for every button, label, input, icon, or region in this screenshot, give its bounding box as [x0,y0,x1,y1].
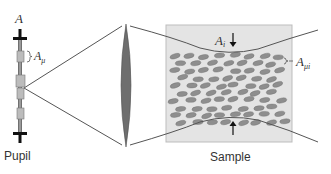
label-aperture-micro: Aμ [33,49,45,65]
optical-diagram: A Aμ Pupil Ai Aμi Sample [0,0,331,174]
subaperture-3 [17,88,24,99]
subaperture-1 [17,51,24,62]
scatterer [186,97,197,102]
label-aperture-sample-micro: Aμi [295,54,310,71]
scatterer [175,61,186,66]
label-aperture-main: A [14,11,23,26]
scatterer [266,104,277,109]
scatterer [214,113,225,118]
label-pupil: Pupil [4,149,31,163]
pupil-tick-top [19,29,22,39]
label-sample: Sample [210,150,251,164]
pupil-tick-bottom [19,133,22,143]
brace-icon [27,51,32,62]
scatterer [230,69,241,74]
lens [121,24,131,147]
scatterer [259,111,270,116]
scatterer [193,77,204,82]
scatterer [273,55,284,60]
subaperture-2 [16,75,25,87]
beam-lower-in [24,88,122,145]
pupil [13,29,32,143]
subaperture-4 [17,108,24,119]
